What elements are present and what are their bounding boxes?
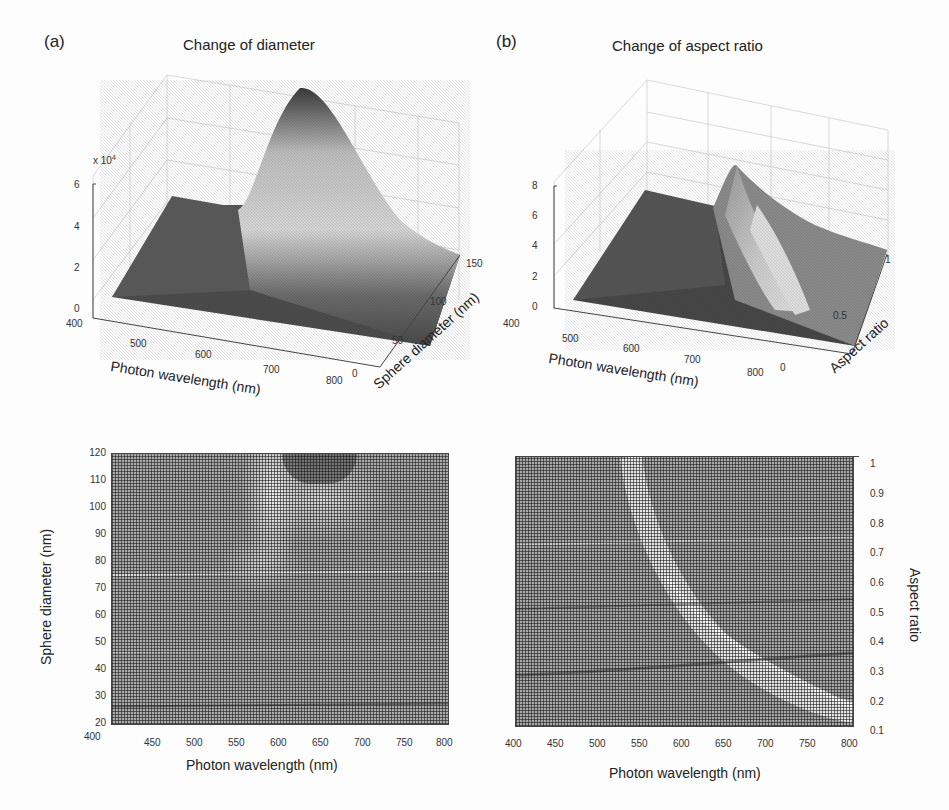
panel-a-z-tick: 2: [74, 262, 80, 273]
panel-b-surface-plot: [475, 0, 949, 410]
y-tick: 0.2: [870, 696, 884, 707]
panel-b-z-tick: 6: [532, 210, 538, 221]
z-exponent: 4: [112, 154, 116, 161]
panel-a-map-x-tick: 600: [270, 737, 287, 748]
y-tick: 120: [89, 447, 106, 458]
panel-a-z-multiplier: x 104: [93, 154, 116, 166]
panel-b-z-tick: 2: [532, 271, 538, 282]
panel-a-x-tick: 700: [263, 364, 280, 375]
panel-a-x-tick: 400: [66, 318, 83, 329]
panel-a-map-x-tick: 500: [186, 737, 203, 748]
panel-b-x-tick: 700: [684, 354, 701, 365]
y-tick: 0.5: [870, 607, 884, 618]
panel-b-z-tick: 8: [532, 180, 538, 191]
panel-b-map-x-tick: 400: [505, 738, 522, 749]
panel-b-x-tick: 400: [503, 318, 520, 329]
y-tick: 0.1: [870, 725, 884, 736]
panel-a-map-x-tick: 700: [354, 737, 371, 748]
panel-b-map-x-tick: 450: [547, 738, 564, 749]
y-tick: 0.6: [870, 577, 884, 588]
panel-b-y-tick: 0.5: [833, 310, 847, 321]
panel-a-map-xlabel: Photon wavelength (nm): [186, 757, 338, 773]
panel-a-heatmap: [111, 453, 449, 725]
panel-b-y-tick: 1: [885, 254, 891, 265]
panel-b-map-x-tick: 650: [715, 738, 732, 749]
y-tick: 50: [95, 636, 106, 647]
panel-a-z-tick: 4: [74, 221, 80, 232]
y-tick: 1: [870, 458, 876, 469]
y-tick: 30: [95, 690, 106, 701]
panel-a-map-x-tick: 400: [84, 731, 101, 742]
panel-b-y-tick: 0: [780, 362, 786, 373]
panel-a-y-tick: 100: [430, 296, 447, 307]
panel-a-x-tick: 600: [195, 349, 212, 360]
panel-b-x-tick: 500: [562, 333, 579, 344]
y-tick: 100: [89, 501, 106, 512]
y-tick: 0.7: [870, 547, 884, 558]
panel-b-map-x-tick: 500: [589, 738, 606, 749]
panel-a-y-tick: 0: [352, 368, 358, 379]
y-tick: 0.3: [870, 666, 884, 677]
y-tick: 0.9: [870, 488, 884, 499]
panel-b-map-x-tick: 700: [757, 738, 774, 749]
panel-a-y-tick: 50: [392, 335, 403, 346]
panel-b-z-tick: 0: [532, 301, 538, 312]
panel-b-x-tick: 800: [747, 367, 764, 378]
panel-a-x-tick: 800: [326, 375, 343, 386]
panel-a-map-x-tick: 450: [144, 737, 161, 748]
panel-a-mesh: [112, 454, 448, 724]
y-tick: 0.4: [870, 636, 884, 647]
y-tick: 110: [90, 474, 106, 485]
panel-b-heatmap: [515, 456, 854, 727]
panel-a-map-ylabel: Sphere diameter (nm): [38, 529, 54, 665]
panel-b-map-x-tick: 600: [673, 738, 690, 749]
panel-b-map-x-tick: 800: [841, 738, 858, 749]
panel-b-map-x-tick: 550: [631, 738, 648, 749]
panel-b-x-tick: 600: [623, 343, 640, 354]
panel-a-map-x-tick: 650: [312, 737, 329, 748]
panel-a-z-tick: 6: [74, 179, 80, 190]
panel-a-map-x-tick: 800: [436, 737, 453, 748]
panel-b-map-ylabel: Aspect ratio: [907, 568, 923, 642]
panel-a-x-tick: 500: [130, 338, 147, 349]
y-tick: 70: [95, 582, 106, 593]
panel-a-z-tick: 0: [74, 303, 80, 314]
z-multiplier-text: x 10: [93, 155, 112, 166]
y-tick: 0.8: [870, 518, 884, 529]
panel-b-z-tick: 4: [532, 240, 538, 251]
panel-a-map-x-tick: 550: [228, 737, 245, 748]
y-tick: 60: [95, 609, 106, 620]
panel-b-map-x-tick: 750: [799, 738, 816, 749]
panel-b-mesh: [516, 457, 853, 726]
y-tick: 40: [95, 663, 106, 674]
y-tick: 20: [95, 717, 106, 728]
y-tick: 80: [95, 555, 106, 566]
panel-a-map-x-tick: 750: [396, 737, 413, 748]
panel-b-map-xlabel: Photon wavelength (nm): [609, 765, 761, 781]
y-tick: 90: [95, 528, 106, 539]
y-tick-mark: [853, 456, 859, 457]
